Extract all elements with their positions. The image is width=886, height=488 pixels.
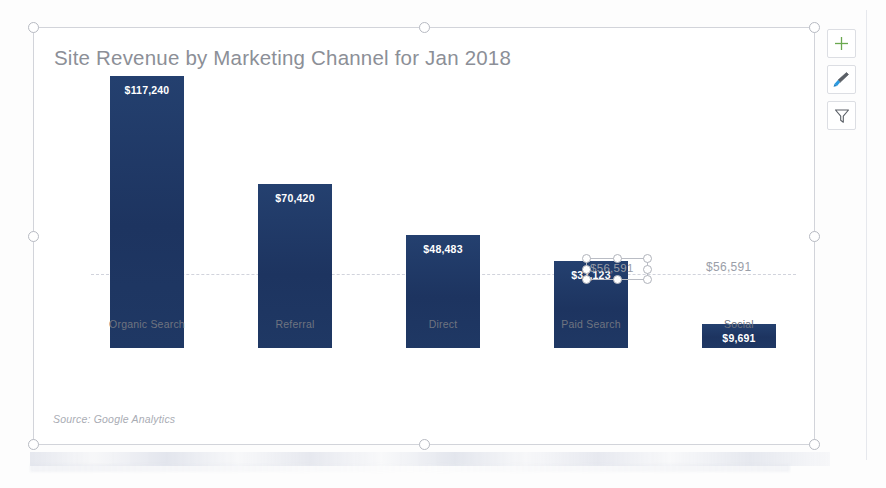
chart-title[interactable]: Site Revenue by Marketing Channel for Ja… [54,46,511,70]
bar-organic-search[interactable] [110,76,184,348]
chart-object[interactable]: Site Revenue by Marketing Channel for Ja… [33,27,815,445]
bar-slot-direct: $48,483 Direct [369,88,517,348]
page-boundary-line [866,10,867,460]
chart-filters-button[interactable] [827,101,856,130]
bar-series: $117,240 Organic Search $70,420 Referral… [53,88,800,348]
category-label-direct: Direct [429,318,458,330]
chart-handle-n[interactable] [419,22,430,33]
chart-handle-s[interactable] [419,439,430,450]
plus-icon [833,35,850,52]
bar-slot-organic-search: $117,240 Organic Search [73,88,221,348]
category-label-paid-search: Paid Search [561,318,620,330]
bar-label-referral: $70,420 [275,192,314,204]
bar-slot-referral: $70,420 Referral [221,88,369,348]
average-value-text[interactable]: $56,591 [706,260,751,274]
selected-data-label-textbox[interactable]: $56,591 [586,258,648,280]
selection-handle-e[interactable] [643,265,652,274]
selection-handle-n[interactable] [613,254,622,263]
plot-area[interactable]: $117,240 Organic Search $70,420 Referral… [53,88,800,392]
chart-quick-buttons [827,29,857,130]
bar-label-social: $9,691 [722,332,755,344]
chart-handle-se[interactable] [809,439,820,450]
source-note: Source: Google Analytics [53,413,175,425]
category-label-referral: Referral [276,318,315,330]
paintbrush-icon [832,70,851,89]
chart-handle-e[interactable] [809,231,820,242]
worksheet-background: Site Revenue by Marketing Channel for Ja… [0,0,886,488]
category-label-social: Social [724,318,754,330]
bar-slot-social: $9,691 Social [665,88,813,348]
selected-textbox-value: $56,591 [590,262,634,274]
chart-handle-w[interactable] [28,231,39,242]
chart-elements-button[interactable] [827,29,856,58]
chart-handle-ne[interactable] [809,22,820,33]
chart-styles-button[interactable] [827,65,856,94]
funnel-icon [833,107,851,125]
scan-noise-band-lower [30,464,790,472]
selection-handle-se[interactable] [643,275,652,284]
selection-handle-ne[interactable] [643,254,652,263]
selection-handle-w[interactable] [582,265,591,274]
category-label-organic-search: Organic Search [109,318,185,330]
selection-handle-sw[interactable] [582,275,591,284]
bar-label-direct: $48,483 [423,243,462,255]
bar-slot-paid-search: $37,123 Paid Search [517,88,665,348]
bar-label-organic-search: $117,240 [125,84,170,96]
selection-handle-s[interactable] [613,275,622,284]
selection-handle-nw[interactable] [582,254,591,263]
chart-handle-sw[interactable] [28,439,39,450]
chart-handle-nw[interactable] [28,22,39,33]
